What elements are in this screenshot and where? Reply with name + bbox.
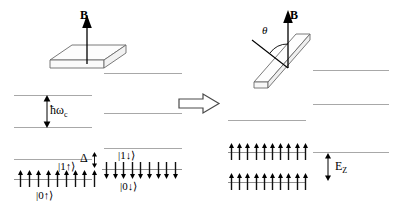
- spin-up-arrow-icon: [254, 173, 259, 191]
- spin-down-arrow-icon: [130, 161, 135, 179]
- spin-up-arrow-icon: [18, 170, 23, 188]
- figure-canvas: B ħωc |1↑⟩ |0↑⟩ Δ: [0, 0, 393, 213]
- tilted-slab-icon: [254, 34, 310, 88]
- spin-up-arrow-icon: [82, 170, 87, 188]
- left-level-0-down-spins: [104, 161, 178, 179]
- zeeman-energy-label: EZ: [335, 160, 347, 175]
- spin-up-arrow-icon: [64, 170, 69, 188]
- right-col1-empty-level-top: [228, 120, 306, 121]
- right-filled-level-lower-spins: [229, 173, 308, 191]
- left-level-0-up-label: |0↑⟩: [36, 190, 53, 201]
- spin-up-arrow-icon: [270, 143, 275, 161]
- spin-up-arrow-icon: [295, 173, 300, 191]
- spin-down-arrow-icon: [121, 161, 126, 179]
- tilt-angle-label: θ: [262, 25, 267, 36]
- spin-up-arrow-icon: [245, 173, 250, 191]
- left-level-1-down: [104, 148, 182, 149]
- transition-arrow-icon: [178, 93, 220, 115]
- left-col2-empty-level-upper: [104, 73, 182, 74]
- spin-down-arrow-icon: [156, 161, 161, 179]
- zeeman-energy-measure: [322, 153, 334, 181]
- right-col2-empty-level-1: [313, 70, 389, 71]
- spin-up-arrow-icon: [229, 173, 234, 191]
- left-level-0-down-label: |0↓⟩: [120, 181, 137, 192]
- spin-down-arrow-icon: [104, 161, 109, 179]
- spin-up-arrow-icon: [92, 170, 97, 188]
- spin-up-arrow-icon: [303, 143, 308, 161]
- spin-up-arrow-icon: [286, 143, 291, 161]
- zeeman-gap-measure: [90, 152, 99, 168]
- spin-up-arrow-icon: [73, 170, 78, 188]
- spin-down-arrow-icon: [113, 161, 118, 179]
- spin-down-arrow-icon: [147, 161, 152, 179]
- spin-up-arrow-icon: [245, 143, 250, 161]
- spin-down-arrow-icon: [164, 161, 169, 179]
- spin-up-arrow-icon: [36, 170, 41, 188]
- spin-down-arrow-icon: [138, 161, 143, 179]
- spin-up-arrow-icon: [262, 143, 267, 161]
- spin-up-arrow-icon: [55, 170, 60, 188]
- zeeman-gap-label: Δ: [80, 152, 88, 164]
- left-level-0-up-spins: [18, 170, 97, 188]
- right-field-label: B: [290, 9, 298, 21]
- right-col2-empty-level-2: [313, 104, 389, 105]
- spin-down-arrow-icon: [173, 161, 178, 179]
- spin-up-arrow-icon: [262, 173, 267, 191]
- spin-up-arrow-icon: [237, 143, 242, 161]
- left-col2-empty-level-lower: [104, 113, 182, 114]
- spin-up-arrow-icon: [303, 173, 308, 191]
- spin-up-arrow-icon: [270, 173, 275, 191]
- spin-up-arrow-icon: [46, 170, 51, 188]
- spin-up-arrow-icon: [286, 173, 291, 191]
- left-field-label: B: [80, 9, 88, 21]
- spin-up-arrow-icon: [237, 173, 242, 191]
- spin-up-arrow-icon: [229, 143, 234, 161]
- cyclotron-gap-label: ħωc: [50, 104, 67, 119]
- spin-up-arrow-icon: [27, 170, 32, 188]
- spin-up-arrow-icon: [278, 173, 283, 191]
- flat-slab-icon: [50, 45, 126, 68]
- spin-up-arrow-icon: [278, 143, 283, 161]
- right-filled-level-upper-spins: [229, 143, 308, 161]
- spin-up-arrow-icon: [295, 143, 300, 161]
- spin-up-arrow-icon: [254, 143, 259, 161]
- left-level-1-down-label: |1↓⟩: [118, 150, 135, 161]
